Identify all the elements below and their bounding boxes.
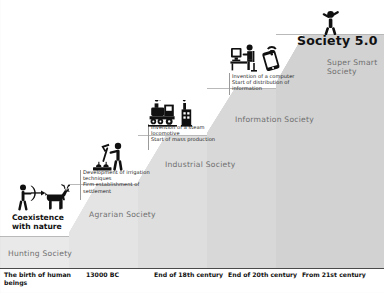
computer-user-mobile-icon [230, 44, 284, 74]
tread-line-hunting [0, 236, 69, 237]
page-title: Society 5.0 [297, 33, 378, 48]
timeline-tick-4: End of 20th century [228, 271, 297, 279]
coexistence-line1: Coexistence [12, 213, 64, 222]
timeline-tick-1: The birth of human beings [4, 271, 71, 286]
timeline-axis [0, 268, 384, 269]
annotation-information-line2: Start of distribution of [232, 79, 289, 85]
step-label-information: Information Society [235, 115, 314, 124]
annotation-agrarian: Development of irrigation techniques Fir… [83, 169, 150, 194]
annotation-agrarian-line3: Firm establishment of [83, 181, 139, 187]
annotation-industrial-line2: locomotive [151, 130, 180, 136]
step-label-supersmart-line1: Super Smart [327, 58, 377, 67]
timeline-tick-5: From 21st century [302, 271, 366, 279]
annotation-agrarian-line4: settlement [83, 188, 111, 194]
society-5-staircase-infographic: Hunting Society Agrarian Society Industr… [0, 0, 384, 293]
timeline-tick-1-line1: The birth of human [4, 271, 71, 278]
step-label-agrarian: Agrarian Society [89, 210, 156, 219]
step-label-supersmart-line2: Society [327, 67, 357, 76]
steam-locomotive-factory-icon [148, 100, 198, 128]
celebrating-person-icon [318, 9, 344, 35]
timeline-tick-1-line2: beings [4, 279, 27, 286]
coexistence-line2: with nature [12, 222, 62, 231]
step-label-industrial: Industrial Society [165, 160, 235, 169]
leader-line-information [229, 73, 230, 95]
timeline-tick-4-line1: End of 20th century [228, 271, 297, 278]
hunter-deer-icon [14, 183, 70, 213]
timeline-tick-2-line1: 13000 BC [86, 271, 119, 278]
farmer-crops-icon [92, 142, 132, 172]
coexistence-with-nature-label: Coexistence with nature [12, 213, 64, 232]
timeline-tick-3: End of 18th century [154, 271, 223, 279]
annotation-agrarian-line2: techniques [83, 175, 112, 181]
timeline-tick-3-line1: End of 18th century [154, 271, 223, 278]
leader-line-agrarian [80, 170, 81, 200]
timeline-tick-2: 13000 BC [86, 271, 119, 279]
annotation-industrial-line3: Start of mass production [151, 136, 215, 142]
annotation-information: Invention of a computer Start of distrib… [232, 73, 294, 92]
annotation-information-line3: information [232, 85, 262, 91]
timeline-tick-5-line1: From 21st century [302, 271, 366, 278]
step-label-supersmart: Super Smart Society [327, 58, 377, 76]
step-label-hunting: Hunting Society [8, 249, 72, 258]
